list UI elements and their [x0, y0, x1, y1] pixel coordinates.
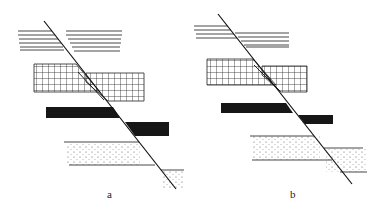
dotted-layer-left	[67, 143, 140, 165]
dotted-layer-left	[252, 136, 320, 160]
lined-layer	[18, 31, 122, 51]
fault-diagram	[0, 0, 385, 213]
panel-b	[194, 14, 367, 184]
panel-a	[18, 21, 184, 189]
grid-layer-right	[86, 73, 144, 101]
black-layer-left	[221, 103, 293, 113]
black-layer-right	[125, 122, 169, 136]
panel-b-label: b	[290, 188, 296, 200]
black-layer-left	[46, 107, 120, 118]
panel-a-label: a	[107, 188, 112, 200]
dotted-layer-right	[326, 148, 367, 172]
